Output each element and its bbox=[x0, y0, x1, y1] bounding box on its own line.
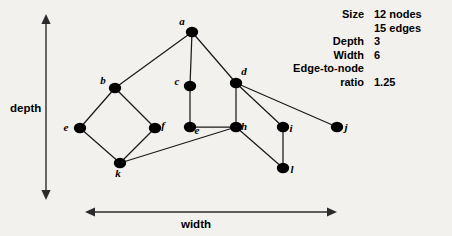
graph-node-a bbox=[186, 27, 198, 37]
graph-node-label-a: a bbox=[179, 15, 185, 27]
stat-value: 1.25 bbox=[374, 76, 395, 88]
graph-node-label-k: k bbox=[115, 167, 121, 179]
stat-value: 12 nodes bbox=[374, 8, 422, 20]
stat-label: Depth bbox=[333, 35, 364, 47]
graph-node-e1 bbox=[74, 123, 86, 133]
graph-node-label-d: d bbox=[241, 65, 247, 77]
depth-axis-label: depth bbox=[10, 102, 41, 114]
graph-node-label-e2: e bbox=[195, 124, 200, 136]
graph-node-c bbox=[184, 81, 196, 91]
graph-node-d bbox=[230, 78, 242, 88]
graph-node-l bbox=[277, 163, 289, 173]
graph-node-f bbox=[149, 123, 161, 133]
stat-value: 3 bbox=[374, 35, 380, 47]
graph-node-label-h: h bbox=[241, 120, 247, 132]
graph-node-label-e1: e bbox=[64, 121, 69, 133]
figure-background bbox=[0, 0, 452, 236]
stat-label: Width bbox=[334, 49, 365, 61]
graph-node-label-b: b bbox=[100, 74, 106, 86]
stat-label: ratio bbox=[340, 76, 364, 88]
stat-label: Edge-to-node bbox=[293, 62, 364, 74]
graph-node-i bbox=[277, 122, 289, 132]
stat-value: 15 edges bbox=[374, 22, 421, 34]
stat-label: Size bbox=[342, 8, 364, 20]
graph-node-label-c: c bbox=[175, 75, 180, 87]
graph-node-b bbox=[109, 83, 121, 93]
graph-metrics-figure: depth width abcdefehijkl Size12 nodes15 … bbox=[0, 0, 452, 236]
width-axis-label: width bbox=[180, 218, 211, 230]
graph-node-j bbox=[331, 122, 343, 132]
stat-value: 6 bbox=[374, 49, 380, 61]
